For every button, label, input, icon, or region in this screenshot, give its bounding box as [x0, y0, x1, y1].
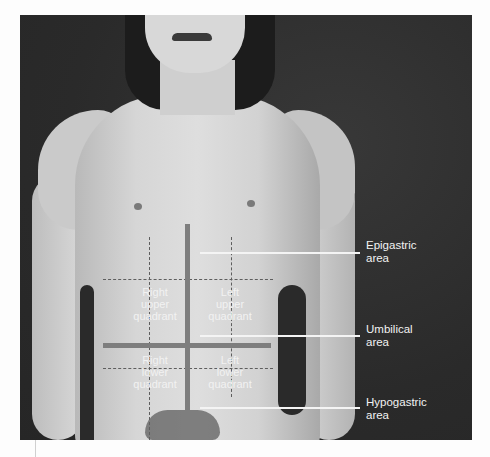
- label-line: Epigastric: [366, 239, 417, 252]
- label-line: quadrant: [115, 310, 195, 322]
- label-line: Right: [115, 354, 195, 366]
- area-label-umbilical: Umbilical area: [366, 323, 413, 348]
- arm-gap-right: [80, 285, 94, 440]
- hypogastric-pointer-line: [200, 407, 360, 409]
- arm-gap-left: [278, 285, 306, 415]
- quadrant-label-left-upper: Left upper quadrant: [190, 286, 270, 322]
- label-line: upper: [115, 298, 195, 310]
- solid-horizontal-umbilical-line: [103, 343, 271, 348]
- label-line: quadrant: [115, 378, 195, 390]
- quadrant-label-right-upper: Right upper quadrant: [115, 286, 195, 322]
- label-line: Umbilical: [366, 323, 413, 336]
- label-line: Hypogastric: [366, 396, 427, 409]
- label-line: lower: [190, 366, 270, 378]
- label-line: quadrant: [190, 310, 270, 322]
- label-line: Left: [190, 286, 270, 298]
- area-label-hypogastric: Hypogastric area: [366, 396, 427, 421]
- area-label-epigastric: Epigastric area: [366, 239, 417, 264]
- pubic-region: [145, 410, 220, 440]
- page-margin-mark: [35, 440, 36, 457]
- label-line: quadrant: [190, 378, 270, 390]
- label-line: area: [366, 252, 417, 265]
- mustache: [172, 33, 212, 41]
- dashed-vertical-right-midclavicular: [149, 237, 150, 440]
- solid-vertical-midline: [185, 224, 190, 440]
- quadrant-label-left-lower: Left lower quadrant: [190, 354, 270, 390]
- label-line: Left: [190, 354, 270, 366]
- epigastric-pointer-line: [200, 252, 360, 254]
- label-line: upper: [190, 298, 270, 310]
- nipple-left: [247, 200, 255, 207]
- label-line: area: [366, 336, 413, 349]
- label-line: area: [366, 409, 427, 422]
- nipple-right: [134, 203, 142, 210]
- label-line: Right: [115, 286, 195, 298]
- umbilical-pointer-line: [200, 335, 360, 337]
- quadrant-label-right-lower: Right lower quadrant: [115, 354, 195, 390]
- label-line: lower: [115, 366, 195, 378]
